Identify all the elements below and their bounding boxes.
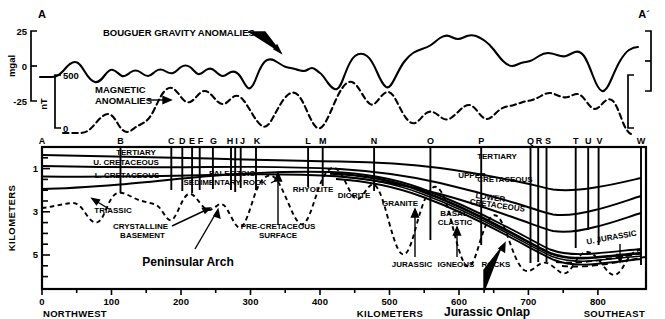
depth-tick-5: 5 [33,249,39,260]
well-label-V: V [596,136,602,146]
unit-label-u-cretaceous: U. CRETACEOUS [93,158,159,167]
mgal-axis-unit: mgal [6,55,17,77]
unit-label-basal: BASAL [440,209,468,218]
distance-tick-800: 800 [590,296,606,307]
annotation-jurassic-onlap: Jurassic Onlap [444,305,530,319]
well-label-G: G [210,136,217,146]
mgal-axis [31,31,37,101]
unit-label-u-jurassic: U. JURASSIC [586,229,638,247]
well-label-H: H [227,136,234,146]
cross-section-frame [42,147,646,289]
section-start-label-top: A [38,8,46,20]
unit-label-tertiary-right: TERTIARY [477,152,517,161]
annotation-basement: BASEMENT [120,231,165,240]
figure-svg: A A´ 25 0 -25 mgal 500 0 nT BOUGUER GRAV… [0,0,665,319]
well-label-K: K [254,136,261,146]
well-label-R: R [536,136,543,146]
well-label-O: O [427,136,434,146]
well-label-S: S [545,136,551,146]
horizon-base-lower-cretaceous [42,172,641,254]
well-label-W: W [637,136,646,146]
unit-label-diorite: DIORITE [338,191,371,200]
depth-tick-1: 1 [33,163,39,174]
well-label-D: D [179,136,186,146]
unit-label-cretaceous-upper: CRETACEOUS [477,175,533,184]
unit-label-triassic: TRIASSIC [94,206,132,215]
well-label-Q: Q [527,136,534,146]
distance-tick-100: 100 [104,296,120,307]
annotation-jurassic: JURASSIC [392,260,433,269]
annotation-igneous: IGNEOUS [438,260,476,269]
unit-label-paleozoic: PALEOZOIC [209,169,255,178]
well-label-T: T [573,136,579,146]
well-label-P: P [478,136,484,146]
geologic-cross-section-figure: A A´ 25 0 -25 mgal 500 0 nT BOUGUER GRAV… [0,0,665,319]
well-label-B: B [117,136,124,146]
well-label-N: N [371,136,378,146]
distance-axis-title: KILOMETERS [357,308,423,319]
mgal-tick-25: 25 [16,26,27,37]
nt-tick-500: 500 [63,70,79,81]
well-label-C: C [168,136,175,146]
unit-label-sedimentary-rock: SEDIMENTARY ROCK [184,178,267,187]
annotation-peninsular-arch: Peninsular Arch [142,255,234,269]
unit-label-tertiary-left: TERTIARY [116,148,156,157]
distance-tick-400: 400 [312,296,328,307]
unit-label-l-cretaceous: L. CRETACEOUS [95,171,160,180]
well-label-E: E [189,136,195,146]
annotation-pre-cretaceous: PRE-CRETACEOUS [241,222,316,231]
mgal-tick-minus25: -25 [13,96,27,107]
direction-northwest: NORTHWEST [43,308,107,319]
nt-axis-unit: nT [39,98,49,109]
horizon-jurassic-onlap-lower [333,176,641,261]
annotation-surface: SURFACE [259,231,298,240]
well-label-M: M [319,136,327,146]
distance-tick-200: 200 [173,296,189,307]
well-label-J: J [240,136,245,146]
annotation-rocks: ROCKS [482,260,512,269]
well-label-L: L [305,136,311,146]
well-label-A: A [39,136,46,146]
right-scale-bracket-magnetic [628,75,634,128]
nt-axis [55,75,61,128]
unit-label-clastic: CLASTIC [438,218,473,227]
distance-tick-0: 0 [39,296,44,307]
distance-tick-500: 500 [382,296,398,307]
right-scale-bracket-gravity [645,31,651,91]
unit-label-granite: GRANITE [382,199,419,208]
magnetic-curve-label-line1: MAGNETIC [95,84,146,95]
well-label-F: F [198,136,204,146]
direction-southeast: SOUTHEAST [584,308,645,319]
gravity-curve-label: BOUGUER GRAVITY ANOMALIES [103,27,255,38]
well-labels: A B C D E F G H I J K L M N O P Q R S T … [39,136,646,146]
section-end-label-top: A´ [638,8,650,20]
well-label-I: I [235,136,238,146]
depth-axis-title: KILOMETERS [6,185,17,251]
magnetic-anomalies-curve [63,82,631,134]
unit-label-rhyolite: RHYOLITE [293,185,334,194]
bouguer-gravity-curve [40,35,638,91]
depth-tick-3: 3 [33,206,38,217]
annotation-crystalline: CRYSTALLINE [113,222,169,231]
mgal-tick-0: 0 [22,61,27,72]
magnetic-curve-label-line2: ANOMALIES [95,95,152,106]
distance-tick-300: 300 [243,296,259,307]
well-label-U: U [585,136,592,146]
